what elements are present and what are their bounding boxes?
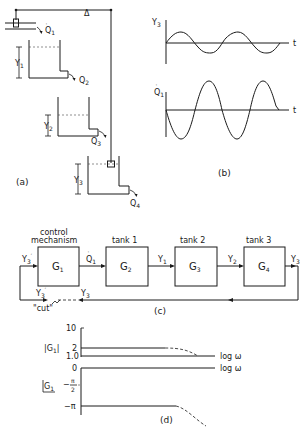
block-g1-label: G1 — [52, 261, 64, 273]
fulcrum-delta: Δ — [84, 9, 90, 18]
q1-signal-label: Q1 — [86, 255, 96, 265]
phase-tick-label-minus-pi: −π — [64, 402, 76, 411]
panel-b-caption: (b) — [218, 168, 231, 178]
cut-mark — [52, 300, 60, 304]
q1-dot: · — [46, 20, 48, 27]
feedback-y3-label: Y3 — [80, 289, 90, 299]
x-label-magnitude: log ω — [220, 352, 242, 361]
q1-signal-dot: · — [88, 248, 90, 255]
phase-tick-pi-den: 2 — [71, 386, 75, 393]
panel-c-block-diagram: control mechanism tank 1 tank 2 tank 3 G… — [20, 228, 300, 316]
time-label-bottom: t — [293, 106, 296, 115]
panel-a-caption: (a) — [16, 177, 29, 187]
q3-arrowhead — [104, 135, 107, 138]
q1-signal-arrowhead — [101, 264, 106, 268]
q2-label: Q2 — [79, 76, 89, 86]
x-label-phase: log ω — [220, 364, 242, 373]
panel-d-caption: (d) — [160, 415, 173, 425]
y3-output-label: Y3 — [290, 255, 300, 265]
y2-signal-label: Y2 — [227, 255, 237, 265]
y3-label: Y3 — [73, 176, 83, 186]
panel-a-tank-system: Δ Q1 · Y1 Q2 Y2 Q3 — [5, 9, 140, 209]
y2-signal-arrowhead — [239, 264, 244, 268]
q4-label: Q4 — [130, 199, 140, 209]
q1-axis-dot: · — [156, 81, 158, 88]
input-arrowhead — [33, 264, 38, 268]
block-4-header: tank 3 — [246, 236, 271, 245]
feedback-arrowhead-y3 — [78, 298, 83, 302]
phase-tick-pi-num: π — [71, 377, 75, 384]
tank-1 — [29, 40, 68, 78]
phase-tick-label-0: 0 — [72, 364, 77, 373]
q1-label: Q1 — [45, 26, 55, 36]
tank-2 — [58, 97, 98, 136]
y3-axis-label: Y3 — [151, 18, 161, 28]
y1-signal-arrowhead — [170, 264, 175, 268]
block-g4-label: G4 — [258, 261, 270, 273]
block-g2-label: G2 — [120, 261, 132, 273]
panel-d-bode-plot: 10 2 1.0 |G1| log ω log ω 0 − π 2 G1 −π … — [43, 324, 242, 426]
tank-3 — [88, 156, 129, 194]
block-g3-label: G3 — [189, 261, 201, 273]
y2-label: Y2 — [43, 122, 53, 132]
feedback-y3prime-label: Y3′ — [35, 286, 47, 299]
q1-arrowhead — [40, 31, 43, 34]
q3-label: Q3 — [91, 137, 101, 147]
panel-b-waveforms: Y3 t Q1 · t (b) — [151, 18, 296, 178]
q2-arrowhead — [73, 78, 76, 81]
time-label-top: t — [293, 39, 296, 48]
cut-label: "cut" — [33, 304, 53, 313]
q4-arrowhead — [135, 194, 138, 197]
feedback-arrowhead-right — [228, 298, 233, 302]
block-2-header: tank 1 — [112, 236, 137, 245]
panel-c-caption: (c) — [154, 306, 166, 316]
magnitude-label: |G1| — [44, 344, 59, 354]
phase-label: G1 — [44, 382, 54, 392]
mag-tick-label-10: 10 — [66, 324, 76, 333]
figure-canvas: Δ Q1 · Y1 Q2 Y2 Q3 — [0, 0, 306, 436]
q1-axis-label: Q1 — [154, 88, 164, 98]
phase-curve-rolloff — [176, 406, 206, 426]
mag-tick-label-1: 1.0 — [66, 352, 79, 361]
y1-signal-label: Y1 — [157, 255, 167, 265]
block-1-header-2: mechanism — [31, 236, 78, 245]
magnitude-curve-rolloff — [165, 348, 198, 356]
input-signal-label: Y3′ — [21, 252, 33, 265]
y1-label: Y1 — [14, 59, 24, 69]
phase-tick-minus: − — [63, 380, 70, 389]
block-3-header: tank 2 — [180, 236, 205, 245]
